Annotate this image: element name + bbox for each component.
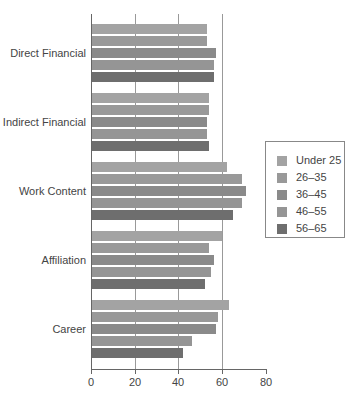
legend-label: 46–55 bbox=[296, 205, 327, 217]
tick-label-0: 0 bbox=[88, 376, 94, 388]
bar bbox=[91, 174, 242, 184]
tick-label-40: 40 bbox=[172, 376, 184, 388]
bar bbox=[91, 72, 214, 82]
bar bbox=[91, 243, 209, 253]
tick-20 bbox=[135, 369, 136, 374]
legend-label: 26–35 bbox=[296, 171, 327, 183]
legend-label: Under 25 bbox=[296, 154, 341, 166]
bar bbox=[91, 162, 227, 172]
bar bbox=[91, 267, 211, 277]
tick-label-20: 20 bbox=[129, 376, 141, 388]
bar bbox=[91, 141, 209, 151]
legend-swatch bbox=[277, 224, 287, 234]
tick-label-80: 80 bbox=[260, 376, 272, 388]
bar bbox=[91, 93, 209, 103]
category-label-work-content: Work Content bbox=[19, 185, 86, 197]
bar bbox=[91, 36, 207, 46]
category-label-affiliation: Affiliation bbox=[42, 254, 86, 266]
legend-label: 56–65 bbox=[296, 222, 327, 234]
tick-60 bbox=[222, 369, 223, 374]
y-axis bbox=[91, 14, 92, 370]
tick-40 bbox=[178, 369, 179, 374]
legend-swatch bbox=[277, 156, 287, 166]
legend-swatch bbox=[277, 207, 287, 217]
bar bbox=[91, 198, 242, 208]
category-label-career: Career bbox=[52, 323, 86, 335]
bar bbox=[91, 279, 205, 289]
bar bbox=[91, 336, 192, 346]
legend-swatch bbox=[277, 173, 287, 183]
bar bbox=[91, 210, 233, 220]
bar bbox=[91, 255, 214, 265]
bar bbox=[91, 312, 218, 322]
legend-label: 36–45 bbox=[296, 188, 327, 200]
legend: Under 25 26–35 36–45 46–55 56–65 bbox=[265, 141, 345, 238]
bar bbox=[91, 48, 216, 58]
legend-swatch bbox=[277, 190, 287, 200]
category-label-indirect-financial: Indirect Financial bbox=[3, 116, 86, 128]
bar bbox=[91, 324, 216, 334]
bar bbox=[91, 105, 209, 115]
tick-0 bbox=[91, 369, 92, 374]
bar bbox=[91, 348, 183, 358]
bar bbox=[91, 117, 207, 127]
bar bbox=[91, 300, 229, 310]
bar bbox=[91, 24, 207, 34]
bar bbox=[91, 231, 222, 241]
tick-80 bbox=[266, 369, 267, 374]
bar bbox=[91, 186, 246, 196]
tick-label-60: 60 bbox=[216, 376, 228, 388]
bar bbox=[91, 60, 214, 70]
bar bbox=[91, 129, 207, 139]
bar-chart: Direct Financial Indirect Financial Work… bbox=[0, 0, 356, 400]
category-label-direct-financial: Direct Financial bbox=[10, 47, 86, 59]
